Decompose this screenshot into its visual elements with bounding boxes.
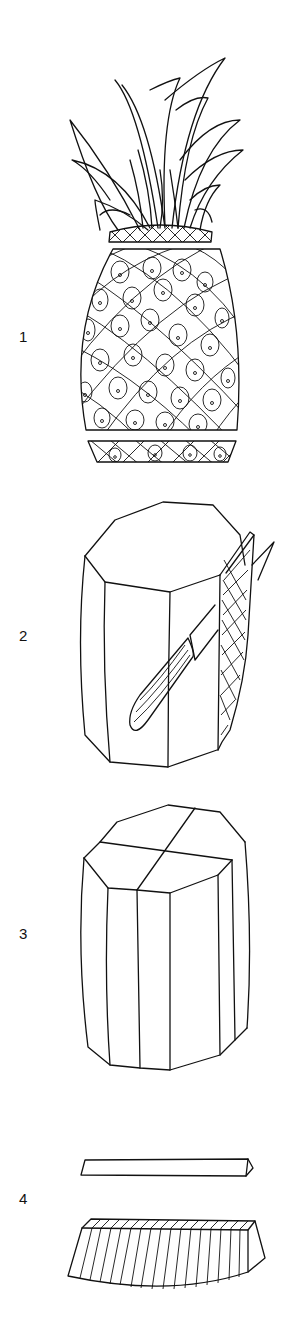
pineapple-illustration: [0, 0, 290, 470]
peeled-prism: [81, 502, 246, 767]
knife: [130, 605, 218, 730]
crown-leaves: [70, 58, 243, 230]
quartering-illustration: [0, 780, 290, 1080]
peel-strip: [218, 532, 274, 750]
peeling-illustration: [0, 480, 290, 780]
core-strip: [81, 1159, 253, 1176]
sliced-quarter: [68, 1219, 265, 1289]
slicing-illustration: [0, 1080, 290, 1330]
quartered-prism: [81, 805, 250, 1070]
